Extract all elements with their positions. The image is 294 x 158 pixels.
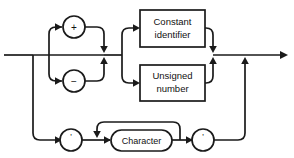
arrow-into-character: [104, 136, 111, 144]
arrow-exit: [280, 51, 288, 59]
closing-quote-node[interactable]: ': [192, 129, 214, 151]
lower-drop-rail: [33, 55, 60, 140]
arrow-loop-back-down: [93, 131, 101, 138]
constant-identifier-label-line2: identifier: [155, 29, 191, 40]
plus-sign-node[interactable]: +: [63, 16, 85, 38]
character-node[interactable]: Character: [111, 130, 172, 151]
arrow-plus-merge-down: [100, 46, 108, 53]
arrow-into-plus: [55, 23, 62, 31]
arrow-constant-merge-down: [209, 46, 217, 53]
railroad-diagram-svg: + − Constant identifier Unsigned number …: [0, 0, 294, 158]
branch-to-constant: [122, 28, 138, 55]
minus-sign-label: −: [71, 76, 77, 87]
constant-identifier-box[interactable]: Constant identifier: [140, 10, 205, 47]
character-label: Character: [122, 136, 162, 146]
constant-identifier-label-line1: Constant: [153, 16, 191, 27]
syntax-diagram-canvas: + − Constant identifier Unsigned number …: [0, 0, 294, 158]
arrow-into-unsigned: [133, 79, 140, 87]
unsigned-number-label-line2: number: [156, 83, 188, 94]
branch-to-plus: [49, 27, 62, 55]
close-quote-exit-rail: [212, 59, 245, 140]
arrow-into-minus: [55, 77, 62, 85]
arrow-minus-merge-up: [100, 57, 108, 64]
branch-to-unsigned: [122, 55, 138, 83]
unsigned-number-label-line1: Unsigned: [152, 70, 192, 81]
arrow-unsigned-merge-up: [209, 57, 217, 64]
opening-quote-node[interactable]: ': [60, 129, 82, 151]
unsigned-number-box[interactable]: Unsigned number: [140, 65, 205, 101]
plus-sign-label: +: [71, 22, 77, 33]
arrow-into-constant: [133, 24, 140, 32]
arrow-lower-merge-up: [241, 57, 249, 64]
branch-to-minus: [49, 55, 62, 81]
minus-sign-node[interactable]: −: [63, 70, 85, 92]
